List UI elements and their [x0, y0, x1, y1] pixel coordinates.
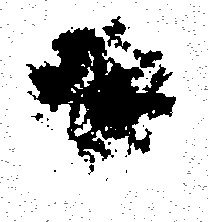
micrograph-figure: Binarized cell micrograph [0, 0, 208, 222]
micrograph-image [0, 0, 208, 222]
